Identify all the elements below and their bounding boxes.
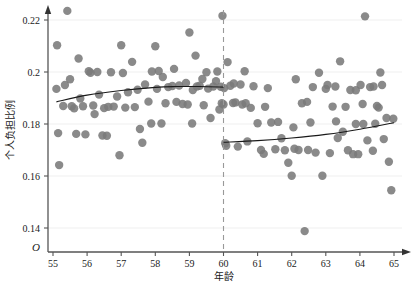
scatter-point: [356, 81, 364, 89]
scatter-point: [363, 136, 371, 144]
scatter-point: [318, 172, 326, 180]
x-tick-label-4: 59: [184, 258, 194, 269]
scatter-point: [359, 120, 367, 128]
scatter-point: [93, 68, 101, 76]
scatter-point: [323, 81, 331, 89]
scatter-point: [133, 85, 141, 93]
x-tick-label-2: 57: [116, 258, 126, 269]
scatter-point: [304, 146, 312, 154]
scatter-point: [311, 148, 319, 156]
y-axis-title: 个人负担比例: [4, 100, 16, 160]
scatter-point: [387, 186, 395, 194]
scatter-point: [389, 115, 397, 123]
scatter-point: [61, 81, 69, 89]
scatter-point: [354, 150, 362, 158]
scatter-point: [107, 68, 115, 76]
scatter-point: [352, 120, 360, 128]
y-tick-label-4: 0.22: [23, 15, 41, 26]
scatter-point: [81, 130, 89, 138]
scatter-point: [378, 81, 386, 89]
scatter-point: [264, 84, 272, 92]
scatter-point: [54, 129, 62, 137]
y-tick-label-2: 0.18: [23, 119, 41, 130]
scatter-point: [230, 79, 238, 87]
scatter-point: [331, 82, 339, 90]
scatter-point: [240, 67, 248, 75]
scatter-point: [117, 41, 125, 49]
scatter-point: [53, 41, 61, 49]
scatter-point: [144, 97, 152, 105]
scatter-point: [59, 102, 67, 110]
scatter-point: [306, 118, 314, 126]
scatter-point: [119, 69, 127, 77]
scatter-point: [380, 135, 388, 143]
scatter-point: [115, 151, 123, 159]
scatter-point: [103, 132, 111, 140]
scatter-point: [113, 92, 121, 100]
scatter-plot-figure: 0.140.160.180.20.22555657585960616263646…: [0, 0, 416, 285]
scatter-point: [79, 102, 87, 110]
y-tick-label-3: 0.2: [28, 67, 41, 78]
scatter-point: [206, 114, 214, 122]
scatter-point: [234, 142, 242, 150]
scatter-point: [121, 103, 129, 111]
y-tick-label-0: 0.14: [23, 223, 41, 234]
x-tick-label-10: 65: [389, 258, 399, 269]
x-tick-label-3: 58: [150, 258, 160, 269]
scatter-point: [159, 73, 167, 81]
scatter-point: [148, 67, 156, 75]
scatter-point: [369, 147, 377, 155]
scatter-point: [289, 123, 297, 131]
scatter-point: [241, 99, 249, 107]
scatter-point: [292, 75, 300, 83]
scatter-point: [385, 158, 393, 166]
scatter-point: [157, 119, 165, 127]
scatter-point: [202, 68, 210, 76]
scatter-point: [151, 42, 159, 50]
y-tick-label-1: 0.16: [23, 171, 41, 182]
scatter-point: [288, 172, 296, 180]
scatter-point: [271, 145, 279, 153]
scatter-point: [138, 139, 146, 147]
x-tick-label-0: 55: [48, 258, 58, 269]
scatter-point: [200, 101, 208, 109]
scatter-point: [72, 130, 80, 138]
scatter-point: [52, 85, 60, 93]
scatter-point: [341, 103, 349, 111]
scatter-point: [89, 101, 97, 109]
x-axis-title: 年龄: [214, 270, 234, 282]
scatter-point: [284, 159, 292, 167]
scatter-point: [55, 161, 63, 169]
scatter-point: [303, 98, 311, 106]
scatter-point: [332, 117, 340, 125]
scatter-point: [369, 82, 377, 90]
scatter-point: [153, 85, 161, 93]
scatter-point: [261, 103, 269, 111]
scatter-point: [161, 99, 169, 107]
scatter-point: [104, 103, 112, 111]
scatter-point: [213, 67, 221, 75]
scatter-point: [336, 57, 344, 65]
scatter-point: [128, 58, 136, 66]
scatter-point: [218, 12, 226, 20]
scatter-point: [361, 12, 369, 20]
scatter-point: [95, 90, 103, 98]
plot-background: [0, 0, 416, 285]
x-tick-label-7: 62: [287, 258, 297, 269]
x-tick-label-6: 61: [253, 258, 263, 269]
scatter-point: [188, 119, 196, 127]
scatter-point: [191, 51, 199, 59]
x-tick-label-1: 56: [82, 258, 92, 269]
scatter-point: [326, 149, 334, 157]
origin-label: O: [32, 241, 40, 253]
scatter-point: [70, 104, 78, 112]
scatter-point: [281, 146, 289, 154]
scatter-point: [358, 100, 366, 108]
scatter-point: [223, 58, 231, 66]
scatter-point: [136, 125, 144, 133]
scatter-point: [147, 119, 155, 127]
scatter-point: [184, 100, 192, 108]
x-tick-label-9: 64: [355, 258, 365, 269]
scatter-point: [182, 79, 190, 87]
scatter-point: [274, 118, 282, 126]
